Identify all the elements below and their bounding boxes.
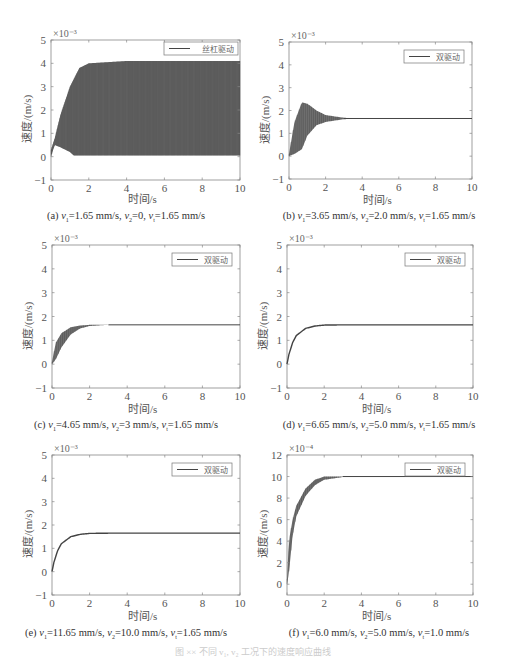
x-axis-label: 时间/s (362, 607, 391, 623)
y-axis-label: 速度/(m/s) (254, 494, 270, 558)
figure-caption: 图 ×× 不同 v₁, v₂ 工况下的速度响应曲线 (0, 645, 506, 658)
y-tick-label: 6 (277, 514, 283, 526)
legend: 双驱动 (405, 463, 465, 476)
x-tick-label: 6 (396, 597, 402, 609)
x-tick-label: 2 (321, 597, 327, 609)
x-tick-label: 0 (284, 597, 290, 609)
y-tick-label: 0 (277, 578, 283, 590)
y-tick-label: 12 (271, 449, 282, 461)
x-tick-label: 8 (433, 597, 439, 609)
legend-label: 双驱动 (437, 465, 461, 475)
x-tick-label: 10 (468, 597, 480, 609)
y-tick-label: 8 (277, 492, 283, 504)
y-tick-label: 4 (277, 535, 283, 547)
chart-f: 0246810024681012×10⁻⁴双驱动 (0, 0, 506, 659)
axis-exponent: ×10⁻⁴ (289, 443, 314, 454)
y-tick-label: 10 (271, 471, 283, 483)
y-tick-label: 2 (277, 557, 283, 569)
panel-caption-f: (f) v1=6.0 mm/s, v2=5.0 mm/s, vt=1.0 mm/… (254, 627, 504, 640)
